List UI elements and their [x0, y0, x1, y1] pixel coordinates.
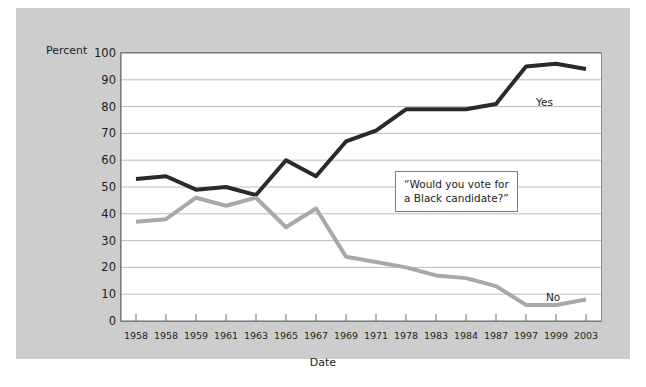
series-label-yes: Yes	[536, 96, 553, 108]
data-series-group	[136, 64, 586, 305]
chart-figure: Percent Date 0102030405060708090100 1958…	[16, 8, 630, 359]
series-line-yes	[136, 64, 586, 195]
chart-plot-canvas	[16, 8, 630, 359]
series-label-no: No	[546, 291, 560, 303]
question-callout: “Would you vote for a Black candidate?”	[395, 171, 518, 212]
x-tick-mark-group	[136, 314, 586, 321]
